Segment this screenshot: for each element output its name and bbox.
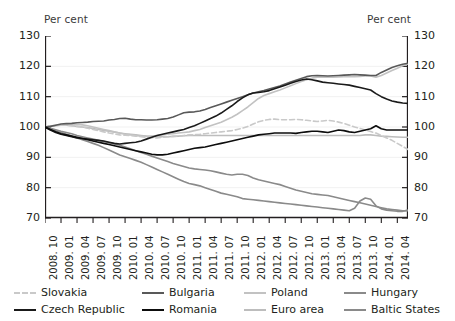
x-tick-label: 2010. 10 xyxy=(177,235,187,280)
x-tick-label: 2013. 01 xyxy=(321,235,331,280)
x-tick-label: 2012. 04 xyxy=(273,235,283,280)
legend-line-swatch-icon xyxy=(14,292,36,294)
y-tick-label-right: 130 xyxy=(414,30,442,41)
legend-item-poland[interactable]: Poland xyxy=(244,286,344,299)
x-tick-label: 2013. 10 xyxy=(369,235,379,280)
legend-item-czech-republic[interactable]: Czech Republic xyxy=(14,303,142,316)
left-axis-title: Per cent xyxy=(44,13,88,25)
legend-item-baltic-states[interactable]: Baltic States xyxy=(344,303,446,316)
x-tick-label: 2011. 01 xyxy=(193,235,203,280)
right-axis-title: Per cent xyxy=(367,13,411,25)
x-tick-label: 2009. 04 xyxy=(81,235,91,280)
x-tick-label: 2010. 04 xyxy=(145,235,155,280)
legend-item-label: Euro area xyxy=(271,303,324,316)
series-line-czech-republic xyxy=(45,79,408,144)
legend-item-label: Slovakia xyxy=(41,286,87,299)
y-tick-label-right: 80 xyxy=(414,182,442,193)
x-tick-label: 2012. 07 xyxy=(289,235,299,280)
x-tick-label: 2009. 10 xyxy=(113,235,123,280)
legend-item-euro-area[interactable]: Euro area xyxy=(244,303,344,316)
legend-line-swatch-icon xyxy=(142,309,164,311)
y-tick-label-left: 120 xyxy=(12,60,40,71)
legend-item-label: Bulgaria xyxy=(169,286,215,299)
chart-legend: SlovakiaBulgariaPolandHungaryCzech Repub… xyxy=(14,284,446,318)
legend-line-swatch-icon xyxy=(142,292,164,294)
chart-container: Per cent Per cent 708090100110120130 708… xyxy=(0,0,455,321)
x-tick-label: 2011. 10 xyxy=(241,235,251,280)
legend-item-label: Poland xyxy=(271,286,308,299)
y-tick-label-left: 70 xyxy=(12,212,40,223)
legend-line-swatch-icon xyxy=(244,309,266,311)
y-tick-label-left: 90 xyxy=(12,151,40,162)
x-tick-label: 2012. 01 xyxy=(257,235,267,280)
y-tick-label-left: 110 xyxy=(12,91,40,102)
legend-line-swatch-icon xyxy=(244,292,266,294)
legend-item-romania[interactable]: Romania xyxy=(142,303,244,316)
x-tick-label: 2014. 04 xyxy=(401,235,411,280)
y-tick-label-right: 70 xyxy=(414,212,442,223)
x-tick-label: 2012. 10 xyxy=(305,235,315,280)
x-tick-label: 2014. 01 xyxy=(385,235,395,280)
x-tick-label: 2008. 10 xyxy=(49,235,59,280)
y-tick-label-left: 130 xyxy=(12,30,40,41)
x-tick-label: 2010. 07 xyxy=(161,235,171,280)
y-tick-label-right: 90 xyxy=(414,151,442,162)
legend-item-bulgaria[interactable]: Bulgaria xyxy=(142,286,244,299)
x-tick-label: 2009. 07 xyxy=(97,235,107,280)
y-tick-label-left: 100 xyxy=(12,121,40,132)
series-line-bulgaria xyxy=(45,63,408,127)
x-tick-label: 2011. 04 xyxy=(209,235,219,280)
x-axis-tick-labels: 2008. 102009. 012009. 042009. 072009. 10… xyxy=(45,220,408,282)
legend-line-swatch-icon xyxy=(14,309,36,311)
y-tick-label-left: 80 xyxy=(12,182,40,193)
legend-item-hungary[interactable]: Hungary xyxy=(344,286,446,299)
x-tick-label: 2013. 07 xyxy=(353,235,363,280)
plot-area xyxy=(45,36,408,218)
x-tick-label: 2011. 07 xyxy=(225,235,235,280)
line-chart-svg xyxy=(45,36,408,224)
legend-item-label: Czech Republic xyxy=(41,303,125,316)
y-tick-label-right: 120 xyxy=(414,60,442,71)
x-tick-label: 2010. 01 xyxy=(129,235,139,280)
series-line-baltic-states xyxy=(45,127,408,211)
x-tick-label: 2009. 01 xyxy=(65,235,75,280)
series-line-hungary xyxy=(45,127,408,211)
legend-item-label: Hungary xyxy=(371,286,418,299)
y-tick-label-right: 110 xyxy=(414,91,442,102)
legend-item-label: Baltic States xyxy=(371,303,440,316)
y-tick-label-right: 100 xyxy=(414,121,442,132)
x-tick-label: 2013. 04 xyxy=(337,235,347,280)
legend-line-swatch-icon xyxy=(344,292,366,294)
legend-item-slovakia[interactable]: Slovakia xyxy=(14,286,142,299)
legend-line-swatch-icon xyxy=(344,309,366,311)
legend-item-label: Romania xyxy=(169,303,217,316)
